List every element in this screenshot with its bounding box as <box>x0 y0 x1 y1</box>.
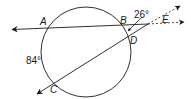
secant-line-ea <box>12 24 148 30</box>
point-label-b: B <box>120 15 127 26</box>
point-label-e: E <box>162 14 169 25</box>
point-label-c: C <box>50 84 58 95</box>
angle-label-26: 26° <box>134 9 149 20</box>
geometry-diagram: A B C D E 26° 84° <box>0 0 191 99</box>
point-label-a: A <box>39 16 47 27</box>
angle-label-84: 84° <box>26 55 41 66</box>
point-label-d: D <box>130 35 137 46</box>
